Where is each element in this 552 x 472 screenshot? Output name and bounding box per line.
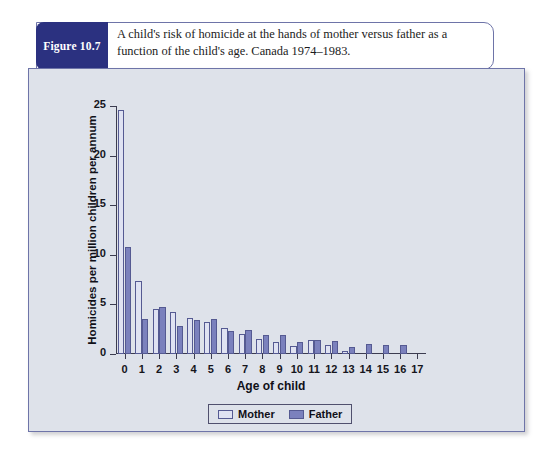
x-axis-tick-label: 11 (308, 363, 320, 375)
y-axis-tick-label: 10 (94, 247, 106, 259)
bar-mother-age-3 (170, 312, 176, 354)
x-axis-tick-label: 12 (325, 363, 337, 375)
bar-mother-age-8 (256, 339, 262, 354)
bar-father-age-12 (332, 341, 338, 354)
bar-mother-age-9 (273, 342, 279, 354)
legend-item-father[interactable]: Father (289, 408, 343, 420)
bar-mother-age-0 (118, 110, 124, 354)
y-axis-tick-label: 25 (94, 98, 106, 110)
bar-father-age-0 (125, 247, 131, 354)
x-axis-tick-label: 16 (394, 363, 406, 375)
x-axis-tick (280, 354, 281, 359)
x-axis-tick (176, 354, 177, 359)
legend-swatch-father-icon (289, 410, 304, 419)
y-axis-tick: 0 (110, 354, 116, 355)
x-axis-tick-label: 3 (173, 363, 179, 375)
y-axis-tick: 25 (110, 106, 116, 107)
bar-father-age-6 (228, 331, 234, 354)
x-axis-tick (331, 354, 332, 359)
x-axis-tick-label: 17 (411, 363, 423, 375)
x-axis-tick (383, 354, 384, 359)
figure-caption-text: A child's risk of homicide at the hands … (117, 26, 487, 60)
y-axis-tick-label: 15 (94, 197, 106, 209)
x-axis-title: Age of child (116, 379, 426, 393)
x-axis-tick (400, 354, 401, 359)
bar-mother-age-5 (204, 322, 210, 354)
bar-father-age-11 (314, 340, 320, 354)
x-axis-tick-label: 14 (360, 363, 372, 375)
bar-mother-age-10 (290, 346, 296, 354)
legend-item-mother[interactable]: Mother (218, 408, 275, 420)
bar-father-age-13 (349, 347, 355, 354)
bar-mother-age-2 (153, 309, 159, 354)
bar-father-age-8 (263, 335, 269, 354)
x-axis-tick (417, 354, 418, 359)
bar-father-age-9 (280, 335, 286, 354)
y-axis-tick: 20 (110, 156, 116, 157)
legend-label-mother: Mother (238, 408, 275, 420)
x-axis-tick (142, 354, 143, 359)
plot-area: 051015202501234567891011121314151617 (116, 106, 426, 354)
x-axis-tick-label: 8 (259, 363, 265, 375)
figure-root: Figure 10.7 A child's risk of homicide a… (0, 0, 552, 472)
bar-mother-age-1 (135, 281, 141, 354)
x-axis-tick (245, 354, 246, 359)
x-axis-tick-label: 10 (291, 363, 303, 375)
bar-mother-age-12 (325, 345, 331, 354)
bar-father-age-5 (211, 319, 217, 354)
bar-mother-age-11 (308, 340, 314, 354)
y-axis-tick-label: 20 (94, 148, 106, 160)
x-axis-tick-label: 9 (277, 363, 283, 375)
y-axis-tick-label: 5 (100, 296, 106, 308)
bar-father-age-10 (297, 342, 303, 354)
x-axis-tick (125, 354, 126, 359)
y-axis-tick: 10 (110, 255, 116, 256)
x-axis-tick-label: 7 (242, 363, 248, 375)
bar-mother-age-6 (221, 328, 227, 354)
bar-father-age-1 (142, 319, 148, 354)
x-axis-tick (297, 354, 298, 359)
bar-father-age-14 (366, 344, 372, 354)
x-axis-tick-label: 4 (190, 363, 196, 375)
legend-swatch-mother-icon (218, 410, 233, 419)
bar-father-age-4 (194, 320, 200, 354)
bar-mother-age-7 (239, 334, 245, 354)
y-axis-tick-label: 0 (100, 346, 106, 358)
legend-label-father: Father (309, 408, 343, 420)
y-axis-tick: 15 (110, 205, 116, 206)
x-axis-tick (349, 354, 350, 359)
y-axis-line (116, 106, 117, 354)
y-axis-tick: 5 (110, 304, 116, 305)
chart-legend: Mother Father (208, 404, 352, 424)
x-axis-tick-label: 6 (225, 363, 231, 375)
bar-mother-age-13 (342, 351, 348, 354)
bar-father-age-7 (245, 330, 251, 354)
x-axis-tick-label: 0 (122, 363, 128, 375)
x-axis-tick (314, 354, 315, 359)
bar-father-age-3 (177, 326, 183, 354)
bar-mother-age-4 (187, 318, 193, 354)
x-axis-tick-label: 1 (139, 363, 145, 375)
x-axis-tick-label: 2 (156, 363, 162, 375)
x-axis-tick-label: 13 (342, 363, 354, 375)
x-axis-tick (262, 354, 263, 359)
x-axis-tick (159, 354, 160, 359)
x-axis-tick (211, 354, 212, 359)
x-axis-tick-label: 5 (208, 363, 214, 375)
x-axis-tick (194, 354, 195, 359)
x-axis-tick (366, 354, 367, 359)
bar-father-age-2 (159, 307, 165, 354)
figure-number-badge: Figure 10.7 (36, 22, 108, 70)
x-axis-tick (228, 354, 229, 359)
bar-father-age-16 (400, 345, 406, 354)
bar-father-age-15 (383, 345, 389, 354)
y-axis-title: Homicides per million children per annum (84, 106, 100, 354)
x-axis-tick-label: 15 (377, 363, 389, 375)
